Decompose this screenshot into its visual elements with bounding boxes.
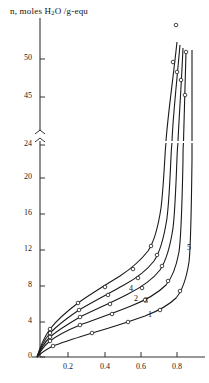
axis-break-upper-mark [35,130,45,134]
curve-2-marker [48,335,52,339]
curve-5-marker [178,289,182,293]
curve-3-marker [155,253,159,257]
curve-3-path-lower [37,143,172,357]
curve-2-marker [179,78,183,82]
y-tick-label-16: 16 [14,208,32,217]
curve-5-marker [126,320,130,324]
curve-label-3: 3 [144,296,148,305]
curve-2-marker [140,286,144,290]
curve-1-marker [183,93,187,97]
curve-3-marker [175,70,179,74]
y-tick-label-4: 4 [14,316,32,325]
curve-1-marker [166,279,170,283]
curve-3-marker [77,308,81,312]
curve-4-marker [103,285,107,289]
curve-1 [37,50,188,357]
curve-label-4: 4 [129,284,133,293]
curve-4-marker [174,23,178,27]
curve-4-marker [171,60,175,64]
curve-label-2: 2 [134,294,138,303]
curve-label-1: 1 [148,310,152,319]
curve-4-marker [149,244,153,248]
x-tick-label-0-8: 0.8 [166,362,188,371]
x-tick-label-0-6: 0.6 [130,362,152,371]
curve-5-marker [51,344,55,348]
curve-1-marker [184,50,188,54]
curve-4-path-lower [37,143,166,357]
curve-4-marker [76,301,80,305]
curve-3-marker [106,293,110,297]
curve-5-marker [158,308,162,312]
y-tick-label-12: 12 [14,244,32,253]
curve-2-marker [160,264,164,268]
curve-3-marker [136,276,140,280]
y-tick-label-50: 50 [14,53,32,62]
y-tick-label-24: 24 [14,139,32,148]
y-tick-label-20: 20 [14,172,32,181]
curve-1-marker [78,323,82,327]
x-tick-label-0-2: 0.2 [57,362,79,371]
y-tick-label-0: 0 [14,351,32,360]
curve-1-marker [110,312,114,316]
curve-4 [37,23,178,357]
y-tick-label-45: 45 [14,91,32,100]
curve-2-marker [78,315,82,319]
curve-label-5: 5 [187,243,191,252]
curve-1-marker [48,339,52,343]
figure-sorption-isotherms: n, moles H2O /g-equ [0,0,209,383]
curve-2-marker [108,302,112,306]
curve-4-marker [48,327,52,331]
y-tick-label-8: 8 [14,280,32,289]
x-tick-label-0-4: 0.4 [94,362,116,371]
curve-5-marker [90,331,94,335]
curve-4-marker [131,267,135,271]
